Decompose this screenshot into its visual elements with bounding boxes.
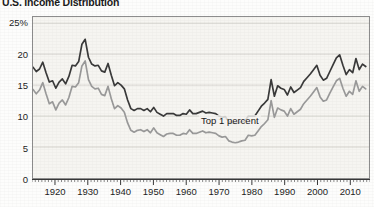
x-axis-tick-label: 1920	[44, 186, 65, 197]
x-axis-tick-label: 1990	[274, 186, 295, 197]
series-line-top-1-percent	[33, 39, 366, 123]
y-axis-tick-label: 10	[17, 111, 28, 122]
x-axis-tick-label: 1960	[176, 186, 197, 197]
x-axis-tick-label: 2010	[340, 186, 361, 197]
y-axis-tick-label: 0	[23, 174, 28, 185]
plot-svg	[33, 17, 369, 178]
x-axis: 1920193019401950196019701980199020002010	[32, 179, 370, 207]
x-axis-tick-label: 1940	[110, 186, 131, 197]
y-axis: 0510152025%	[0, 0, 30, 207]
x-axis-tick-label: 1970	[208, 186, 229, 197]
y-axis-tick-label: 20	[17, 48, 28, 59]
y-axis-tick-label: 25%	[9, 17, 28, 28]
x-axis-tick-label: 1930	[77, 186, 98, 197]
plot-area: Top 1 percent Top 0.5 percent	[32, 16, 370, 179]
y-axis-tick-label: 5	[23, 142, 28, 153]
x-axis-tick-label: 1950	[143, 186, 164, 197]
x-axis-tick-label: 1980	[241, 186, 262, 197]
x-axis-tick-label: 2000	[307, 186, 328, 197]
series-line-top-05-percent	[33, 61, 366, 143]
chart-page: U.S. Income Distribution 0510152025% Top…	[0, 0, 374, 207]
series-label-top-1-percent: Top 1 percent	[199, 115, 261, 126]
y-axis-tick-label: 15	[17, 79, 28, 90]
x-axis-ticks	[32, 179, 370, 186]
